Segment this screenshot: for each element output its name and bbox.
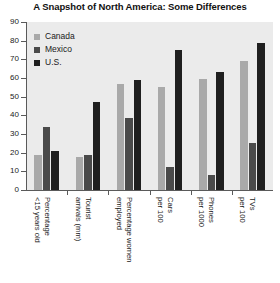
category-label-line2: per 100 [238, 197, 248, 281]
y-axis-tick-label: 80 [0, 37, 19, 45]
legend-label: Canada [45, 32, 75, 41]
bar-us-1 [93, 102, 101, 190]
y-axis-tick [21, 97, 26, 98]
bar-us-0 [51, 151, 59, 190]
bar-canada-3 [158, 87, 166, 190]
y-axis-tick-label: 0 [0, 186, 19, 194]
category-label-line2: employed [115, 197, 125, 281]
x-axis-category-label: TVsper 100 [246, 197, 257, 281]
x-axis-tick [232, 191, 233, 195]
legend-swatch-icon [34, 34, 40, 40]
y-axis-tick-label: 60 [0, 74, 19, 82]
category-label-line2: per 100 [156, 197, 166, 281]
legend-item-us[interactable]: U.S. [34, 56, 75, 69]
bar-mexico-4 [208, 175, 216, 190]
category-label-line1: Phones [207, 197, 216, 223]
legend-swatch-icon [34, 47, 40, 53]
bar-canada-0 [34, 155, 42, 190]
bar-us-5 [257, 43, 265, 190]
x-axis-category-label: Carsper 100 [164, 197, 175, 281]
y-axis-tick-label: 70 [0, 55, 19, 63]
category-label-line1: Percentage [43, 197, 52, 236]
bar-canada-4 [199, 79, 207, 190]
chart-title: A Snapshot of North America: Some Differ… [0, 1, 280, 12]
category-label-line2: per 1000 [197, 197, 207, 281]
y-axis-tick-label: 30 [0, 130, 19, 138]
y-axis-tick-label: 20 [0, 149, 19, 157]
category-label-line2: <15 years old [33, 197, 43, 281]
chart-screenshot: A Snapshot of North America: Some Differ… [0, 0, 280, 283]
x-axis-tick [150, 191, 151, 195]
x-axis-category-label: Percentage<15 years old [41, 197, 52, 281]
y-axis-line [26, 22, 27, 191]
bar-canada-2 [117, 84, 125, 190]
y-axis-tick [21, 41, 26, 42]
bar-mexico-3 [166, 167, 174, 190]
legend-swatch-icon [34, 60, 40, 66]
x-axis-tick [191, 191, 192, 195]
y-axis-tick [21, 153, 26, 154]
category-label-line1: Tourist [84, 197, 93, 219]
y-axis-tick [21, 22, 26, 23]
bar-us-2 [134, 80, 142, 190]
x-axis-category-label: Touristarrivals (mm) [82, 197, 93, 281]
bar-canada-1 [76, 157, 84, 190]
y-axis-tick [21, 59, 26, 60]
legend-label: Mexico [45, 45, 72, 54]
legend-item-mexico[interactable]: Mexico [34, 43, 75, 56]
legend-label: U.S. [45, 58, 62, 67]
category-label-line2: arrivals (mm) [74, 197, 84, 281]
y-axis-tick [21, 78, 26, 79]
y-axis-tick [21, 115, 26, 116]
y-axis-tick-label: 40 [0, 111, 19, 119]
y-axis-tick [21, 134, 26, 135]
x-axis-category-label: Phonesper 1000 [205, 197, 216, 281]
legend-item-canada[interactable]: Canada [34, 30, 75, 43]
y-axis-tick-label: 50 [0, 93, 19, 101]
y-axis-tick-label: 10 [0, 167, 19, 175]
bar-us-3 [175, 50, 183, 190]
y-axis-tick [21, 171, 26, 172]
category-label-line1: Percentage women [125, 197, 134, 262]
bar-mexico-5 [249, 143, 257, 190]
y-axis-tick-label: 90 [0, 18, 19, 26]
bar-mexico-0 [43, 127, 51, 190]
y-axis-tick [21, 190, 26, 191]
x-axis-tick [67, 191, 68, 195]
bar-mexico-2 [125, 118, 133, 190]
category-label-line1: TVs [248, 197, 257, 211]
category-label-line1: Cars [166, 197, 175, 213]
bar-canada-5 [240, 61, 248, 190]
chart-legend: CanadaMexicoU.S. [34, 30, 75, 69]
x-axis-tick [108, 191, 109, 195]
bar-us-4 [216, 72, 224, 190]
x-axis-category-label: Percentage womenemployed [123, 197, 134, 281]
bar-mexico-1 [84, 155, 92, 190]
